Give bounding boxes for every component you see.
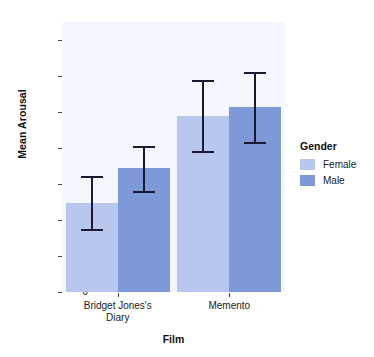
x-axis-tick-label-line: Memento [169, 300, 289, 312]
errorbar-cap-upper [244, 72, 266, 74]
errorbar-cap-upper [81, 176, 103, 178]
x-axis-title: Film [62, 333, 285, 345]
legend-item-label: Female [323, 159, 356, 170]
legend-item-label: Male [323, 175, 345, 186]
x-axis-tick-mark [118, 293, 119, 297]
plot-area [62, 22, 285, 292]
x-axis-tick-label-line: Diary [58, 312, 178, 324]
x-axis-tick-label-line: Bridget Jones's [58, 300, 178, 312]
errorbar-stem [254, 72, 256, 145]
plot-panel [62, 22, 285, 292]
legend-item-female[interactable]: Female [300, 159, 374, 170]
legend-item-male[interactable]: Male [300, 175, 374, 186]
x-axis-tick-mark [229, 293, 230, 297]
errorbar-female-1 [177, 80, 229, 153]
errorbar-cap-lower [81, 229, 103, 231]
legend-key-swatch [300, 175, 315, 186]
bar-chart: Mean Arousal 05101520253035 Bridget Jone… [0, 0, 374, 357]
legend-title: Gender [300, 140, 374, 152]
errorbar-cap-lower [133, 191, 155, 193]
errorbar-cap-lower [192, 151, 214, 153]
errorbar-female-0 [66, 176, 118, 231]
errorbar-cap-upper [192, 80, 214, 82]
y-axis-title: Mean Arousal [16, 64, 28, 184]
x-axis-tick-label: Bridget Jones'sDiary [58, 300, 178, 324]
x-axis-tick-label: Memento [169, 300, 289, 312]
errorbar-stem [91, 176, 93, 231]
errorbar-male-1 [229, 72, 281, 145]
legend-items: FemaleMale [300, 159, 374, 186]
errorbar-stem [143, 146, 145, 193]
errorbar-cap-upper [133, 146, 155, 148]
errorbar-male-0 [118, 146, 170, 193]
errorbar-cap-lower [244, 142, 266, 144]
legend-key-swatch [300, 159, 315, 170]
errorbar-stem [202, 80, 204, 153]
y-axis-tick-mark [58, 292, 62, 293]
legend: Gender FemaleMale [300, 140, 374, 191]
